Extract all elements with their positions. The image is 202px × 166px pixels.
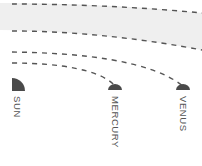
venus-orbit (12, 52, 183, 86)
mercury-icon (108, 84, 122, 90)
sun-label: SUN (12, 96, 22, 118)
mercury-label: MERCURY (110, 96, 120, 148)
venus-label: VENUS (178, 96, 188, 132)
sun-icon (12, 78, 25, 91)
venus-icon (176, 84, 190, 90)
solar-system-diagram (0, 0, 202, 166)
orbit-band (0, 3, 202, 50)
mercury-orbit (12, 63, 114, 85)
